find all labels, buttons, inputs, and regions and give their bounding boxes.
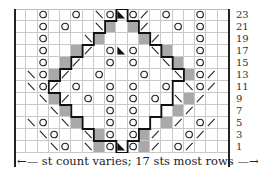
row-label-13: 13: [236, 69, 249, 81]
row-label-3: 3: [236, 129, 242, 141]
row-label-21: 21: [236, 21, 249, 33]
row-label-23: 23: [236, 9, 249, 21]
row-label-1: 1: [236, 141, 242, 153]
chart-right-border: [228, 9, 230, 167]
chart-left-border: [14, 9, 16, 167]
caption-text: st count varies; 17 sts most rows: [42, 154, 234, 168]
row-label-17: 17: [236, 45, 249, 57]
row-label-11: 11: [236, 81, 249, 93]
row-label-15: 15: [236, 57, 249, 69]
row-label-19: 19: [236, 33, 249, 45]
stitch-count-caption: ←— st count varies; 17 sts most rows —→: [17, 154, 227, 168]
row-label-7: 7: [236, 105, 242, 117]
row-label-5: 5: [236, 117, 242, 129]
arrow-left-icon: ←: [17, 154, 27, 168]
row-label-9: 9: [236, 93, 242, 105]
diamond-outline: [15, 9, 229, 153]
arrow-right-icon: →: [249, 154, 259, 168]
